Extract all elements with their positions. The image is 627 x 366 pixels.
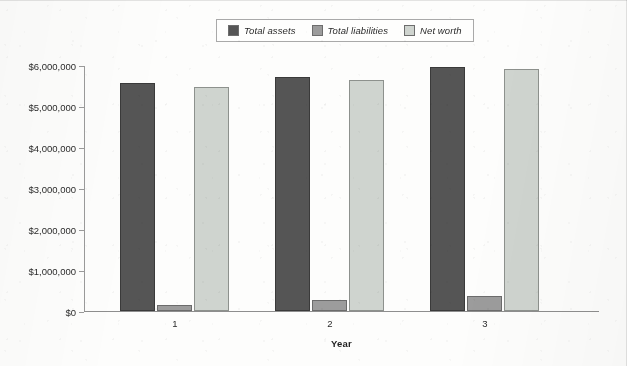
y-axis-tick-label: $6,000,000 bbox=[28, 61, 76, 72]
x-axis-tick-label: 2 bbox=[327, 318, 332, 329]
y-axis-line bbox=[84, 66, 85, 312]
y-axis-tick-mark bbox=[79, 230, 84, 231]
bar-total-liabilities-year-3 bbox=[467, 296, 502, 311]
bar-total-liabilities-year-1 bbox=[157, 305, 192, 311]
y-axis-tick-mark bbox=[79, 312, 84, 313]
legend-label-net-worth: Net worth bbox=[420, 25, 462, 36]
legend-swatch-icon-total-liabilities bbox=[312, 25, 323, 36]
chart-legend: Total assets Total liabilities Net worth bbox=[216, 19, 474, 42]
x-axis-title: Year bbox=[84, 338, 599, 349]
bar-group-year-3 bbox=[430, 65, 539, 311]
y-axis-tick-label: $5,000,000 bbox=[28, 102, 76, 113]
x-axis-line bbox=[84, 311, 599, 312]
legend-swatch-icon-net-worth bbox=[404, 25, 415, 36]
bar-net-worth-year-1 bbox=[194, 87, 229, 311]
bar-total-liabilities-year-2 bbox=[312, 300, 347, 311]
bar-total-assets-year-3 bbox=[430, 67, 465, 311]
legend-label-total-liabilities: Total liabilities bbox=[328, 25, 389, 36]
legend-label-total-assets: Total assets bbox=[244, 25, 296, 36]
legend-item-total-liabilities: Total liabilities bbox=[312, 25, 389, 36]
x-axis-tick-label: 3 bbox=[482, 318, 487, 329]
chart-figure: Total assets Total liabilities Net worth… bbox=[0, 0, 627, 366]
bar-net-worth-year-2 bbox=[349, 80, 384, 311]
bar-total-assets-year-2 bbox=[275, 77, 310, 311]
y-axis-tick-label: $2,000,000 bbox=[28, 225, 76, 236]
legend-item-total-assets: Total assets bbox=[228, 25, 296, 36]
bar-group-year-1 bbox=[120, 65, 229, 311]
y-axis-tick-mark bbox=[79, 148, 84, 149]
scan-edge-top bbox=[0, 0, 627, 1]
y-axis-tick-mark bbox=[79, 271, 84, 272]
bar-group-year-2 bbox=[275, 65, 384, 311]
x-axis-tick-label: 1 bbox=[172, 318, 177, 329]
y-axis-tick-label: $4,000,000 bbox=[28, 143, 76, 154]
legend-swatch-icon-total-assets bbox=[228, 25, 239, 36]
legend-item-net-worth: Net worth bbox=[404, 25, 462, 36]
y-axis-tick-label: $0 bbox=[65, 307, 76, 318]
bar-net-worth-year-3 bbox=[504, 69, 539, 311]
y-axis-tick-mark bbox=[79, 107, 84, 108]
bar-total-assets-year-1 bbox=[120, 83, 155, 311]
y-axis-tick-label: $1,000,000 bbox=[28, 266, 76, 277]
y-axis-tick-mark bbox=[79, 189, 84, 190]
plot-area: $0$1,000,000$2,000,000$3,000,000$4,000,0… bbox=[84, 66, 599, 311]
y-axis-tick-mark bbox=[79, 66, 84, 67]
y-axis-tick-label: $3,000,000 bbox=[28, 184, 76, 195]
